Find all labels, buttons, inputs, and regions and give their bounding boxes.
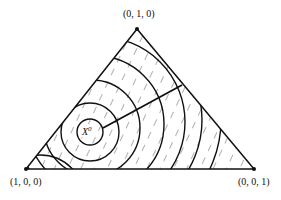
center-point-superscript: 0 bbox=[88, 125, 92, 133]
center-point-label: X0 bbox=[82, 124, 92, 137]
vertex-top bbox=[135, 27, 139, 31]
vertex-right-label: (0, 0, 1) bbox=[238, 176, 270, 187]
vertex-top-label: (0, 1, 0) bbox=[123, 8, 155, 19]
vertex-right bbox=[252, 167, 256, 171]
vertex-left-label: (1, 0, 0) bbox=[10, 176, 42, 187]
simplex-diagram bbox=[0, 0, 281, 200]
hatching bbox=[0, 0, 281, 200]
vertex-left bbox=[24, 167, 28, 171]
